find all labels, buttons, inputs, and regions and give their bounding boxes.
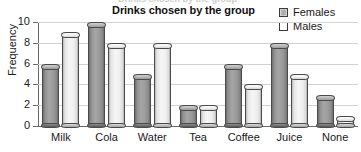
bar-body [42, 67, 59, 126]
bar-body [271, 46, 288, 126]
bar-body [291, 77, 308, 126]
bar-body [154, 46, 171, 126]
x-label-coffee: Coffee [221, 129, 267, 149]
bar-top-cap [133, 74, 152, 80]
x-label-cola: Cola [84, 129, 130, 149]
bar-tea-males[interactable] [200, 105, 217, 126]
bar-body [245, 87, 262, 126]
bar-base-cap [107, 123, 126, 128]
bar-group-juice [267, 22, 313, 126]
bar-groups [38, 22, 358, 126]
bar-base-cap [316, 123, 335, 128]
bar-top-cap [290, 74, 309, 80]
bar-body [225, 67, 242, 126]
y-tick-label-6: 6 [10, 58, 30, 69]
bar-cola-females[interactable] [88, 22, 105, 126]
plot-area [38, 22, 358, 126]
bar-top-cap [336, 116, 355, 122]
bar-group-tea [175, 22, 221, 126]
y-tick-label-2: 2 [10, 99, 30, 110]
bar-none-females[interactable] [317, 95, 334, 126]
bar-base-cap [199, 123, 218, 128]
x-label-water: Water [129, 129, 175, 149]
bar-group-coffee [221, 22, 267, 126]
bar-group-none [312, 22, 358, 126]
bar-top-cap [107, 43, 126, 49]
gridline-0 [38, 126, 358, 127]
bar-coffee-females[interactable] [225, 64, 242, 126]
y-tick-label-4: 4 [10, 78, 30, 89]
bar-top-cap [153, 43, 172, 49]
bar-base-cap [153, 123, 172, 128]
bar-juice-females[interactable] [271, 43, 288, 126]
bar-base-cap [87, 123, 106, 128]
bar-base-cap [224, 123, 243, 128]
bar-milk-females[interactable] [42, 64, 59, 126]
bar-base-cap [244, 123, 263, 128]
bar-base-cap [336, 123, 355, 128]
bar-chart: Drinks chosen by the group Drinks chosen… [0, 0, 361, 152]
x-label-milk: Milk [38, 129, 84, 149]
bar-top-cap [270, 43, 289, 49]
y-tick-label-8: 8 [10, 37, 30, 48]
bar-group-cola [84, 22, 130, 126]
bar-group-milk [38, 22, 84, 126]
bar-top-cap [87, 22, 106, 28]
bar-top-cap [244, 84, 263, 90]
bar-tea-females[interactable] [180, 105, 197, 126]
bar-top-cap [316, 95, 335, 101]
legend-item-females[interactable]: Females [279, 5, 357, 19]
bar-top-cap [41, 64, 60, 70]
bar-base-cap [290, 123, 309, 128]
bar-top-cap [61, 32, 80, 38]
bar-group-water [129, 22, 175, 126]
bar-body [88, 25, 105, 126]
bar-body [317, 98, 334, 126]
bar-juice-males[interactable] [291, 74, 308, 126]
bar-coffee-males[interactable] [245, 84, 262, 126]
bar-body [108, 46, 125, 126]
legend-label-females: Females [293, 7, 335, 18]
bar-top-cap [224, 64, 243, 70]
bar-base-cap [41, 123, 60, 128]
bar-base-cap [61, 123, 80, 128]
filled-gray-square-icon [279, 8, 288, 17]
bar-base-cap [179, 123, 198, 128]
bar-milk-males[interactable] [62, 32, 79, 126]
y-tick-label-0: 0 [10, 120, 30, 131]
bar-base-cap [270, 123, 289, 128]
bar-top-cap [179, 105, 198, 111]
x-label-none: None [312, 129, 358, 149]
bar-none-males[interactable] [337, 116, 354, 126]
x-label-juice: Juice [267, 129, 313, 149]
bar-base-cap [133, 123, 152, 128]
x-axis-labels: MilkColaWaterTeaCoffeeJuiceNone [38, 129, 358, 149]
bar-water-males[interactable] [154, 43, 171, 126]
x-label-tea: Tea [175, 129, 221, 149]
bar-water-females[interactable] [134, 74, 151, 126]
bar-cola-males[interactable] [108, 43, 125, 126]
y-tick-label-10: 10 [10, 16, 30, 27]
bar-top-cap [199, 105, 218, 111]
bar-body [134, 77, 151, 126]
bar-body [62, 35, 79, 126]
